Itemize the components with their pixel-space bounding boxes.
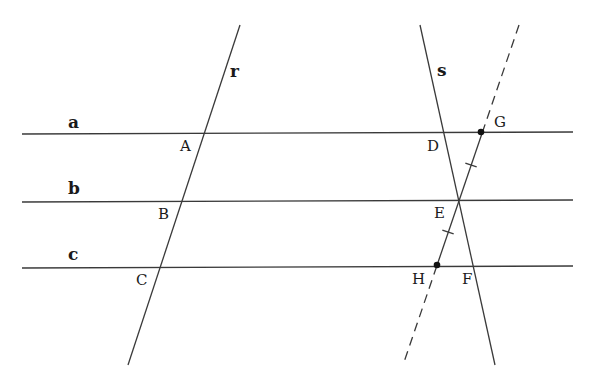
point-label-e: E — [434, 204, 445, 222]
transversal-s — [420, 25, 495, 365]
transversal-r — [128, 25, 240, 365]
transversal-label-r: r — [230, 61, 240, 81]
line-a — [22, 132, 573, 134]
point-h — [434, 262, 441, 269]
line-c — [22, 266, 573, 268]
geometry-diagram: abcrsABCDEFGH — [0, 0, 590, 388]
parallel-lines-group — [22, 132, 573, 268]
transversal-label-s: s — [437, 60, 447, 80]
point-label-d: D — [427, 137, 439, 155]
point-label-h: H — [412, 270, 425, 288]
line-label-a: a — [68, 112, 79, 132]
point-g — [478, 129, 485, 136]
point-label-c: C — [136, 271, 147, 289]
dashed-line-group — [403, 25, 519, 365]
line-label-c: c — [68, 244, 78, 264]
point-label-g: G — [494, 113, 506, 131]
point-label-f: F — [462, 270, 472, 288]
line-b — [22, 200, 573, 202]
point-label-b: B — [158, 205, 169, 223]
segment-gh — [437, 132, 483, 266]
line-label-b: b — [68, 178, 80, 198]
point-label-a: A — [179, 137, 191, 155]
